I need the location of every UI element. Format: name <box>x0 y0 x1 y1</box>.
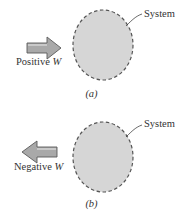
system-leader-line <box>126 14 142 26</box>
work-sign-label: Negative <box>14 161 52 172</box>
system-circle <box>73 10 133 80</box>
negative-work-arrow-icon <box>22 141 57 163</box>
work-symbol: W <box>52 56 61 67</box>
panel-a: System Positive W (a) <box>0 0 183 109</box>
system-label: System <box>144 8 175 19</box>
system-leader-line <box>126 125 142 137</box>
caption-a: (a) <box>0 88 183 99</box>
system-circle <box>73 122 133 192</box>
system-label: System <box>144 118 175 129</box>
work-symbol: W <box>55 161 64 172</box>
caption-b: (b) <box>0 198 183 209</box>
work-label: Positive W <box>16 56 61 67</box>
work-sign-label: Positive <box>16 56 50 67</box>
work-label: Negative W <box>14 161 63 172</box>
panel-b: System Negative W (b) <box>0 110 183 219</box>
